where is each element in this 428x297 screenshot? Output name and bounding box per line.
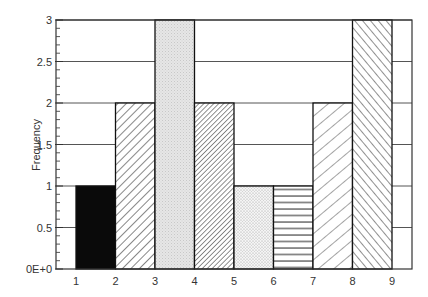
- x-tick-label: 2: [112, 275, 118, 287]
- y-tick-label: 1: [46, 180, 52, 192]
- x-tick-label: 8: [349, 275, 355, 287]
- x-tick-label: 9: [389, 275, 395, 287]
- bar-7-8: [313, 103, 353, 269]
- bar-2-3: [116, 103, 156, 269]
- bar-1-2: [76, 186, 116, 269]
- bar-3-4: [155, 20, 195, 269]
- y-tick-label: 0.5: [37, 222, 52, 234]
- y-tick-label: 3: [46, 14, 52, 26]
- y-tick-label: 2: [46, 97, 52, 109]
- bar-8-9: [353, 20, 393, 269]
- x-tick-label: 3: [152, 275, 158, 287]
- x-axis: 123456789: [73, 275, 395, 287]
- y-tick-label: 2.5: [37, 56, 52, 68]
- y-axis-title: Frequency: [30, 119, 42, 171]
- x-tick-label: 1: [73, 275, 79, 287]
- x-tick-label: 7: [310, 275, 316, 287]
- bar-4-5: [195, 103, 235, 269]
- bar-6-7: [274, 186, 314, 269]
- y-tick-label: 0E+0: [26, 263, 52, 275]
- bar-5-6: [234, 186, 274, 269]
- x-tick-label: 6: [270, 275, 276, 287]
- x-tick-label: 5: [231, 275, 237, 287]
- histogram-chart: 0E+00.511.522.53 123456789 Frequency: [0, 0, 428, 297]
- x-tick-label: 4: [191, 275, 197, 287]
- bars: [76, 20, 392, 269]
